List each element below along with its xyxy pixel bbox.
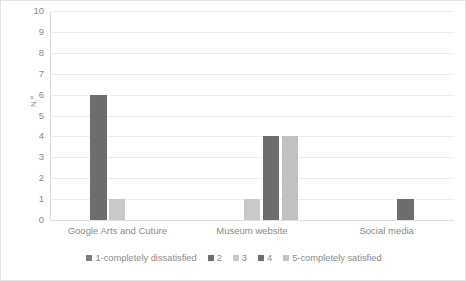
legend-label: 1-completely dissatisfied (95, 253, 196, 263)
plot-area (50, 11, 454, 220)
bar (263, 136, 279, 220)
gridline (50, 11, 454, 12)
gridline (50, 220, 454, 221)
bar (397, 199, 413, 220)
y-axis-tick-label: 4 (7, 131, 44, 141)
y-axis-tick-label: 3 (7, 152, 44, 162)
bar-chart: N.º 109876543210 Google Arts and CutureM… (0, 0, 466, 281)
y-axis-tick-label: 8 (7, 48, 44, 58)
legend-swatch-icon (86, 255, 92, 261)
legend-item[interactable]: 4 (258, 253, 272, 263)
x-axis-category-labels: Google Arts and CutureMuseum websiteSoci… (50, 225, 454, 245)
gridline (50, 116, 454, 117)
legend-item[interactable]: 1-completely dissatisfied (86, 253, 196, 263)
gridline (50, 95, 454, 96)
bar (109, 199, 125, 220)
gridline (50, 157, 454, 158)
y-axis-tick-label: 10 (7, 6, 44, 16)
gridline (50, 32, 454, 33)
legend-label: 3 (242, 253, 247, 263)
chart-legend: 1-completely dissatisfied2345-completely… (1, 253, 466, 263)
y-axis-tick-label: 0 (7, 215, 44, 225)
y-axis-tick-label: 9 (7, 27, 44, 37)
y-axis-tick-label: 7 (7, 69, 44, 79)
y-axis-tick-label: 1 (7, 194, 44, 204)
legend-swatch-icon (208, 255, 214, 261)
legend-label: 5-completely satisfied (292, 253, 381, 263)
y-axis-tick-label: 2 (7, 173, 44, 183)
legend-label: 4 (267, 253, 272, 263)
bar (282, 136, 298, 220)
gridline (50, 53, 454, 54)
gridline (50, 74, 454, 75)
legend-item[interactable]: 3 (233, 253, 247, 263)
bar (244, 199, 260, 220)
x-axis-category-label: Museum website (185, 225, 320, 236)
legend-item[interactable]: 5-completely satisfied (283, 253, 381, 263)
gridline (50, 136, 454, 137)
legend-swatch-icon (233, 255, 239, 261)
y-axis-tick-label: 6 (7, 90, 44, 100)
y-axis-tick-label: 5 (7, 111, 44, 121)
bar (90, 95, 106, 220)
legend-label: 2 (217, 253, 222, 263)
legend-swatch-icon (258, 255, 264, 261)
x-axis-category-label: Google Arts and Cuture (50, 225, 185, 236)
gridline (50, 178, 454, 179)
legend-swatch-icon (283, 255, 289, 261)
legend-item[interactable]: 2 (208, 253, 222, 263)
x-axis-category-label: Social media (319, 225, 454, 236)
